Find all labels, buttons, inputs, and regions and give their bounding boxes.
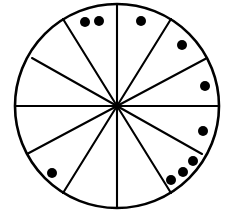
dot-2 [94,16,104,26]
dot-3 [136,16,146,26]
dot-7 [188,156,198,166]
dot-5 [200,81,210,91]
dot-6 [198,126,208,136]
circle-sector-diagram [0,0,234,219]
dot-8 [178,167,188,177]
dot-10 [47,168,57,178]
figure-root: Circle divided into twelve sectors with … [0,0,234,219]
dot-4 [177,40,187,50]
dot-9 [166,175,176,185]
dot-1 [80,17,90,27]
